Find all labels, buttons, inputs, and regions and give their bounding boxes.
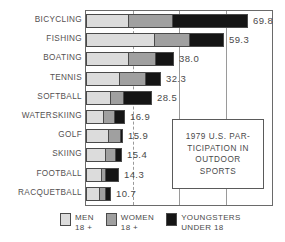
category-label: FOOTBALL (36, 168, 82, 180)
bar-segment-youth (155, 53, 173, 65)
bar-segment-men (87, 149, 105, 161)
legend-label-women: WOMEN18 + (121, 213, 154, 232)
bar-value-label: 59.3 (229, 33, 249, 47)
bar-value-label: 38.0 (179, 52, 199, 66)
bar-segment-youth (105, 169, 118, 181)
bar-row: 32.3 (86, 72, 272, 86)
bar-value-label: 15.4 (127, 148, 147, 162)
bar-row: 38.0 (86, 52, 272, 66)
legend-swatch-women (106, 213, 117, 226)
category-label: RACQUETBALL (18, 187, 82, 199)
bar-segment-women (128, 15, 172, 27)
stacked-bar (86, 148, 122, 162)
category-label: SKIING (52, 148, 82, 160)
legend-item-women: WOMEN18 + (106, 213, 154, 232)
bar-segment-women (154, 34, 189, 46)
bar-segment-women (105, 149, 115, 161)
category-label: TENNIS (50, 72, 82, 84)
bar-row: 28.5 (86, 91, 272, 105)
legend-label-line1: YOUNGSTERS (181, 213, 241, 223)
legend-label-line2: 18 + (121, 223, 154, 233)
stacked-bar (86, 91, 152, 105)
bar-row: 69.8 (86, 14, 272, 28)
legend-label-line2: 18 + (75, 223, 94, 233)
chart-title-line: SPORTS (200, 166, 237, 178)
stacked-bar (86, 110, 125, 124)
bar-segment-youth (189, 34, 223, 46)
bar-value-label: 10.7 (116, 187, 136, 201)
chart-title-box: 1979 U.S. PAR-TICIPATION INOUTDOORSPORTS (172, 119, 264, 189)
legend-swatch-men (60, 213, 71, 226)
bar-segment-men (87, 169, 101, 181)
bar-segment-youth (105, 188, 110, 200)
bar-segment-women (119, 73, 145, 85)
bar-segment-men (87, 130, 108, 142)
bar-segment-women (128, 53, 155, 65)
chart-title-line: OUTDOOR (195, 154, 240, 166)
bar-segment-youth (114, 111, 124, 123)
legend-swatch-youth (166, 213, 177, 226)
bar-value-label: 32.3 (166, 72, 186, 86)
stacked-bar (86, 168, 119, 182)
category-label: WATERSKIING (22, 110, 82, 122)
stacked-bar (86, 129, 123, 143)
bar-value-label: 15.9 (128, 129, 148, 143)
stacked-bar (86, 33, 224, 47)
stacked-bar (86, 14, 248, 28)
bar-segment-youth (172, 15, 247, 27)
bar-segment-youth (123, 92, 151, 104)
legend-label-youth: YOUNGSTERSUNDER 18 (181, 213, 241, 232)
bar-row: 59.3 (86, 33, 272, 47)
bar-segment-men (87, 92, 110, 104)
bar-segment-youth (145, 73, 160, 85)
legend-label-line2: UNDER 18 (181, 223, 241, 233)
legend-item-men: MEN18 + (60, 213, 94, 232)
bar-value-label: 28.5 (157, 91, 177, 105)
category-label: GOLF (58, 129, 82, 141)
chart-title-line: TICIPATION IN (187, 143, 249, 155)
bar-segment-men (87, 188, 99, 200)
bar-segment-men (87, 15, 128, 27)
stacked-bar (86, 187, 111, 201)
bar-segment-men (87, 111, 103, 123)
legend-label-line1: WOMEN (121, 213, 154, 223)
category-label: FISHING (46, 33, 82, 45)
stacked-bar (86, 52, 174, 66)
legend-label-men: MEN18 + (75, 213, 94, 232)
bar-segment-women (108, 130, 120, 142)
bar-value-label: 14.3 (124, 168, 144, 182)
legend-label-line1: MEN (75, 213, 94, 223)
bar-value-label: 16.9 (130, 110, 150, 124)
bar-segment-youth (120, 130, 122, 142)
chart-title-line: 1979 U.S. PAR- (186, 131, 251, 143)
bar-segment-men (87, 73, 119, 85)
chart-legend: MEN18 +WOMEN18 +YOUNGSTERSUNDER 18 (60, 213, 280, 239)
legend-item-youth: YOUNGSTERSUNDER 18 (166, 213, 241, 232)
bar-segment-women (110, 92, 123, 104)
stacked-bar (86, 72, 161, 86)
stacked-bar-chart: BICYCLINGFISHINGBOATINGTENNISSOFTBALLWAT… (0, 0, 285, 242)
category-label: BICYCLING (35, 14, 82, 26)
bar-segment-women (103, 111, 114, 123)
category-label: BOATING (43, 52, 82, 64)
bar-segment-youth (115, 149, 121, 161)
bar-segment-men (87, 34, 154, 46)
category-label-column: BICYCLINGFISHINGBOATINGTENNISSOFTBALLWAT… (0, 0, 82, 242)
bar-segment-men (87, 53, 128, 65)
category-label: SOFTBALL (37, 91, 82, 103)
bar-value-label: 69.8 (253, 14, 273, 28)
